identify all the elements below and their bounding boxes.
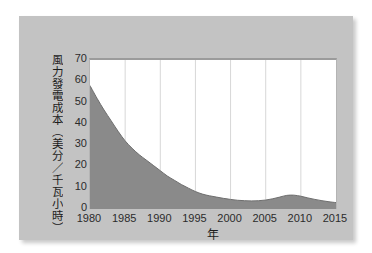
y-tick-label: 60 (67, 74, 87, 85)
x-tick-label: 1985 (104, 212, 144, 224)
y-tick-label: 30 (67, 138, 87, 149)
chart-figure: 風力發電成本（美分／千瓦小時） 010203040506070 19801985… (0, 0, 372, 253)
y-axis-title: 風力發電成本（美分／千瓦小時） (46, 54, 63, 234)
x-tick-label: 2015 (315, 212, 355, 224)
y-axis-ticks: 010203040506070 (65, 58, 87, 209)
x-tick-label: 2005 (245, 212, 285, 224)
y-tick-label: 10 (67, 181, 87, 192)
x-tick-label: 1980 (69, 212, 109, 224)
x-tick-label: 1995 (174, 212, 214, 224)
area-chart-svg (90, 60, 336, 209)
x-axis-title: 年 (89, 225, 337, 242)
plot-area (89, 58, 337, 209)
area-series-fill (90, 86, 336, 209)
y-tick-label: 40 (67, 117, 87, 128)
x-tick-label: 2010 (280, 212, 320, 224)
x-tick-label: 2000 (210, 212, 250, 224)
y-tick-label: 20 (67, 159, 87, 170)
y-tick-label: 70 (67, 53, 87, 64)
y-tick-label: 50 (67, 96, 87, 107)
x-tick-label: 1990 (139, 212, 179, 224)
chart-panel: 風力發電成本（美分／千瓦小時） 010203040506070 19801985… (19, 16, 353, 240)
